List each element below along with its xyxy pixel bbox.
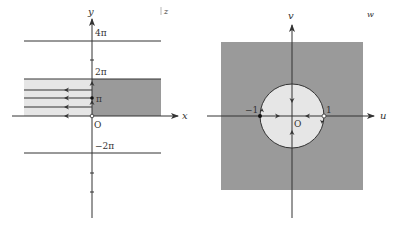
u-axis-label: u — [380, 110, 386, 121]
tick-label-pi: π — [96, 94, 102, 104]
origin-label: O — [94, 120, 101, 130]
y-axis-label: y — [87, 6, 94, 17]
pi-point — [90, 96, 94, 100]
z-plane-corner-label: z — [163, 7, 169, 16]
diagram-canvas: y x O 4π 2π π −2π z v u O −1 1 w — [0, 0, 395, 229]
z-plane: y x O 4π 2π π −2π z — [12, 6, 188, 218]
w-plane: v u O −1 1 w — [207, 10, 386, 218]
dark-strip-region — [92, 79, 161, 116]
v-axis-label: v — [288, 10, 294, 21]
w-plane-corner-label: w — [367, 10, 374, 19]
tick-label-4pi: 4π — [95, 28, 107, 38]
point-neg-one — [258, 114, 262, 118]
point-label-neg-one: −1 — [245, 105, 258, 115]
origin-label: O — [294, 119, 301, 129]
tick-label-neg-2pi: −2π — [95, 141, 114, 151]
point-label-one: 1 — [326, 105, 332, 115]
origin-point — [90, 114, 94, 118]
x-axis-label: x — [182, 110, 188, 121]
tick-label-2pi: 2π — [95, 67, 107, 77]
